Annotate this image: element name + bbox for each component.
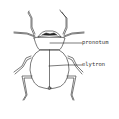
beetle-diagram	[0, 0, 119, 119]
pronotum-label: pronotum	[82, 40, 109, 46]
elytron-label: elytron	[82, 62, 105, 68]
hind-legs	[22, 76, 76, 100]
antennae	[28, 10, 67, 35]
